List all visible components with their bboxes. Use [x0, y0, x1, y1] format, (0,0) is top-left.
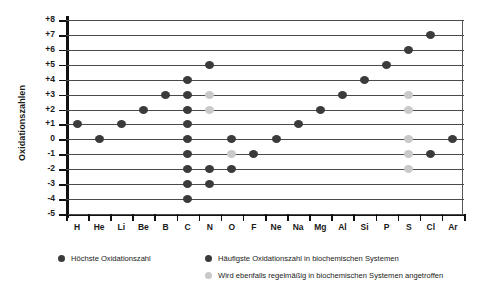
data-point: [183, 106, 192, 114]
y-axis-tick-label: +3: [29, 90, 55, 99]
legend-label: Höchste Oxidationszahl: [71, 254, 151, 264]
legend-item-most-common-biochemical: Häufigste Oxidationszahl in biochemische…: [205, 254, 399, 264]
data-point: [161, 91, 170, 99]
x-axis-tick: [66, 214, 68, 221]
y-axis-tick: [59, 35, 66, 37]
y-axis-tick: [59, 124, 66, 126]
y-axis-tick: [59, 50, 66, 52]
y-axis-tick-label: -5: [29, 209, 55, 218]
y-axis-tick: [59, 214, 66, 216]
data-point: [117, 120, 126, 128]
y-axis-tick-label: +4: [29, 75, 55, 84]
data-point: [183, 135, 192, 143]
y-axis-tick: [59, 184, 66, 186]
gridline: [66, 35, 464, 36]
data-point: [205, 91, 214, 99]
y-axis-line: [66, 16, 69, 218]
y-axis-tick: [59, 65, 66, 67]
legend-marker-dark-icon: [205, 255, 212, 262]
data-point: [73, 120, 82, 128]
y-axis-tick-label: +2: [29, 105, 55, 114]
legend-label: Wird ebenfalls regelmäßig in biochemisch…: [218, 271, 443, 281]
x-axis-tick: [265, 214, 267, 221]
y-axis-tick-label: -3: [29, 179, 55, 188]
x-axis-tick-label: Ar: [440, 223, 466, 232]
x-axis-tick: [177, 214, 179, 221]
x-axis-tick: [243, 214, 245, 221]
data-point: [404, 106, 413, 114]
data-point: [294, 120, 303, 128]
data-point: [205, 61, 214, 69]
x-axis-tick: [199, 214, 201, 221]
legend-marker-dark-icon: [58, 255, 65, 262]
data-point: [404, 165, 413, 173]
data-point: [360, 76, 369, 84]
y-axis-tick: [59, 110, 66, 112]
legend-item-also-regularly-found: Wird ebenfalls regelmäßig in biochemisch…: [205, 271, 455, 281]
data-point: [139, 106, 148, 114]
y-axis-tick-label: -4: [29, 194, 55, 203]
x-axis-tick: [353, 214, 355, 221]
x-axis-tick: [154, 214, 156, 221]
y-axis-title: Oxidationszahlen: [17, 53, 27, 193]
x-axis-tick: [309, 214, 311, 221]
gridline: [66, 199, 464, 200]
gridline: [66, 20, 464, 21]
chart-legend: Höchste Oxidationszahl Häufigste Oxidati…: [0, 252, 479, 306]
x-axis-tick: [88, 214, 90, 221]
legend-label: Häufigste Oxidationszahl in biochemische…: [218, 254, 399, 264]
y-axis-tick-label: -2: [29, 164, 55, 173]
data-point: [338, 91, 347, 99]
x-axis-tick: [442, 214, 444, 221]
y-axis-tick: [59, 20, 66, 22]
x-axis-tick: [376, 214, 378, 221]
x-axis-tick: [132, 214, 134, 221]
data-point: [404, 150, 413, 158]
data-point: [183, 150, 192, 158]
y-axis-tick: [59, 95, 66, 97]
gridline: [66, 184, 464, 185]
data-point: [404, 135, 413, 143]
x-axis-tick: [398, 214, 400, 221]
data-point: [426, 150, 435, 158]
x-axis-tick: [221, 214, 223, 221]
data-point: [183, 120, 192, 128]
data-point: [448, 135, 457, 143]
oxidation-numbers-chart: Oxidationszahlen +8+7+6+5+4+3+2+10-1-2-3…: [0, 0, 479, 306]
y-axis-tick-label: +6: [29, 45, 55, 54]
y-axis-tick-label: +5: [29, 60, 55, 69]
data-point: [272, 135, 281, 143]
data-point: [316, 106, 325, 114]
plot-area: +8+7+6+5+4+3+2+10-1-2-3-4-5 HHeLiBeBCNOF…: [66, 20, 464, 214]
data-point: [183, 76, 192, 84]
data-point: [183, 165, 192, 173]
data-point: [183, 180, 192, 188]
y-axis-tick: [59, 154, 66, 156]
y-axis-tick-label: +8: [29, 15, 55, 24]
data-point: [249, 150, 258, 158]
y-axis-tick-label: +1: [29, 119, 55, 128]
data-point: [205, 180, 214, 188]
y-axis-tick-label: +7: [29, 30, 55, 39]
data-point: [183, 195, 192, 203]
data-point: [404, 91, 413, 99]
x-axis-tick: [287, 214, 289, 221]
gridline: [66, 80, 464, 81]
data-point: [95, 135, 104, 143]
y-axis-tick: [59, 199, 66, 201]
data-point: [426, 31, 435, 39]
x-axis-tick: [110, 214, 112, 221]
data-point: [205, 165, 214, 173]
data-point: [183, 91, 192, 99]
data-point: [382, 61, 391, 69]
x-axis-tick: [464, 214, 466, 221]
y-axis-tick: [59, 80, 66, 82]
data-point: [404, 46, 413, 54]
data-point: [205, 106, 214, 114]
gridline: [66, 65, 464, 66]
data-point: [227, 150, 236, 158]
legend-marker-light-icon: [205, 272, 212, 279]
data-point: [227, 135, 236, 143]
x-axis-tick: [331, 214, 333, 221]
y-axis-tick-label: 0: [29, 134, 55, 143]
